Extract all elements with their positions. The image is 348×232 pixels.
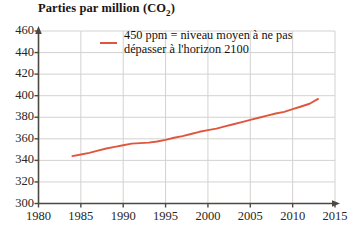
chart-legend: 450 ppm = niveau moyen à ne pas dépasser… (100, 29, 318, 56)
legend-label: 450 ppm = niveau moyen à ne pas dépasser… (124, 29, 292, 56)
y-axis-tick-label: 380 (2, 109, 34, 124)
x-axis-tick-label: 2010 (271, 209, 315, 224)
x-axis-tick-label: 2015 (313, 209, 348, 224)
y-axis-tick-label: 360 (2, 131, 34, 146)
y-axis-tick-label: 400 (2, 88, 34, 103)
chart-container: Parties par million (CO2) 30032034036038… (0, 0, 348, 232)
gridlines (39, 31, 336, 204)
y-axis-tick-label: 320 (2, 174, 34, 189)
x-axis-tick-label: 1985 (59, 209, 103, 224)
x-axis-arrowhead (332, 200, 340, 207)
x-axis-tick-label: 1980 (17, 209, 61, 224)
x-axis-tick-label: 2005 (228, 209, 272, 224)
y-axis-arrowhead (35, 26, 42, 34)
x-axis-tick-label: 1990 (101, 209, 145, 224)
x-axis-tick-label: 1995 (144, 209, 188, 224)
y-axis-tick-label: 340 (2, 152, 34, 167)
x-axis-tick-label: 2000 (186, 209, 230, 224)
y-axis-tick-label: 440 (2, 45, 34, 60)
legend-line-swatch (100, 42, 117, 44)
y-axis-tick-label: 460 (2, 23, 34, 38)
data-series-line (72, 99, 318, 156)
legend-entry: 450 ppm = niveau moyen à ne pas dépasser… (100, 29, 318, 56)
y-axis-tick-label: 420 (2, 66, 34, 81)
